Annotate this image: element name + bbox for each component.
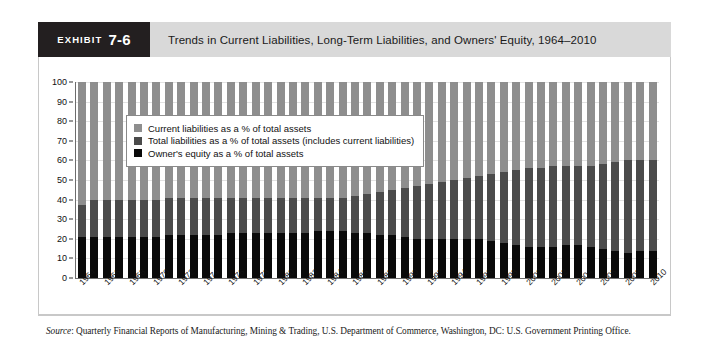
bar-1976	[227, 82, 235, 278]
segment-current-liabilities-2004	[574, 82, 582, 166]
bar-1975	[214, 82, 222, 278]
bar-1987	[363, 82, 371, 278]
y-axis-tick-70: 70	[57, 136, 67, 146]
segment-total-liabilities-1965	[90, 200, 98, 237]
segment-current-liabilities-2005	[587, 82, 595, 166]
segment-total-liabilities-1968	[128, 200, 136, 237]
bar-1967	[115, 82, 123, 278]
segment-current-liabilities-1995	[463, 82, 471, 178]
segment-total-liabilities-2007	[611, 162, 619, 250]
source-note: Source: Quarterly Financial Reports of M…	[46, 326, 671, 336]
bar-2001	[537, 82, 545, 278]
segment-current-liabilities-1965	[90, 82, 98, 200]
plot-area: Current liabilities as a % of total asse…	[75, 82, 659, 279]
segment-current-liabilities-1967	[115, 82, 123, 200]
bar-1983	[314, 82, 322, 278]
segment-total-liabilities-2005	[587, 166, 595, 246]
bar-1972	[177, 82, 185, 278]
bar-1966	[103, 82, 111, 278]
bar-series-group	[76, 82, 659, 278]
segment-total-liabilities-1998	[500, 172, 508, 243]
segment-current-liabilities-1999	[512, 82, 520, 170]
y-axis-tick-10: 10	[57, 253, 67, 263]
y-axis-tick-50: 50	[57, 175, 67, 185]
bar-2008	[624, 82, 632, 278]
bar-1998	[500, 82, 508, 278]
segment-total-liabilities-1982	[301, 198, 309, 233]
segment-current-liabilities-1964	[78, 82, 86, 205]
segment-total-liabilities-1994	[450, 180, 458, 239]
segment-current-liabilities-1993	[438, 82, 446, 182]
segment-current-liabilities-2000	[525, 82, 533, 168]
segment-total-liabilities-1999	[512, 170, 520, 244]
segment-total-liabilities-1976	[227, 198, 235, 233]
legend-item-current-liabilities: Current liabilities as a % of total asse…	[134, 123, 414, 134]
bar-1992	[425, 82, 433, 278]
segment-total-liabilities-1989	[388, 190, 396, 235]
legend-item-owners-equity: Owner's equity as a % of total assets	[134, 148, 414, 159]
bar-1978	[252, 82, 260, 278]
segment-total-liabilities-2002	[549, 166, 557, 246]
exhibit-tab-number: 7-6	[108, 31, 130, 48]
bar-1982	[301, 82, 309, 278]
bar-2009	[636, 82, 644, 278]
segment-current-liabilities-1998	[500, 82, 508, 172]
bar-2002	[549, 82, 557, 278]
y-axis-tick-mark	[69, 140, 73, 141]
segment-current-liabilities-2008	[624, 82, 632, 160]
y-axis-tick-mark	[69, 258, 73, 259]
segment-total-liabilities-1997	[487, 174, 495, 241]
segment-current-liabilities-1996	[475, 82, 483, 176]
source-divider	[38, 315, 671, 316]
bar-1977	[239, 82, 247, 278]
segment-total-liabilities-1979	[264, 198, 272, 233]
y-axis-tick-0: 0	[62, 273, 67, 283]
bar-1994	[450, 82, 458, 278]
legend-swatch-owners-equity	[134, 149, 142, 157]
segment-total-liabilities-1993	[438, 182, 446, 239]
segment-current-liabilities-2002	[549, 82, 557, 166]
legend-label-owners-equity: Owner's equity as a % of total assets	[148, 148, 303, 159]
y-axis-tick-30: 30	[57, 214, 67, 224]
y-axis-tick-mark	[69, 219, 73, 220]
segment-total-liabilities-1964	[78, 205, 86, 236]
segment-total-liabilities-1970	[152, 200, 160, 237]
exhibit-title: Trends in Current Liabilities, Long-Term…	[150, 22, 671, 57]
legend-swatch-current-liabilities	[134, 124, 142, 132]
bar-1986	[351, 82, 359, 278]
y-axis-tick-mark	[69, 238, 73, 239]
bar-1964	[78, 82, 86, 278]
y-axis-tick-20: 20	[57, 234, 67, 244]
source-label: Source	[46, 326, 71, 336]
y-axis-tick-80: 80	[57, 116, 67, 126]
bar-1970	[152, 82, 160, 278]
bar-2007	[611, 82, 619, 278]
segment-current-liabilities-2010	[649, 82, 657, 160]
segment-total-liabilities-1995	[463, 178, 471, 239]
bar-1995	[463, 82, 471, 278]
segment-total-liabilities-2008	[624, 160, 632, 252]
y-axis-tick-mark	[69, 278, 73, 279]
bar-1984	[326, 82, 334, 278]
segment-total-liabilities-1966	[103, 200, 111, 237]
segment-total-liabilities-2004	[574, 166, 582, 244]
legend-item-total-liabilities: Total liabilities as a % of total assets…	[134, 135, 414, 146]
bar-1981	[289, 82, 297, 278]
segment-current-liabilities-1997	[487, 82, 495, 174]
y-axis-tick-mark	[69, 121, 73, 122]
legend-swatch-total-liabilities	[134, 137, 142, 145]
segment-total-liabilities-1973	[190, 198, 198, 235]
segment-current-liabilities-2009	[636, 82, 644, 160]
segment-current-liabilities-1994	[450, 82, 458, 180]
chart-container: 0102030405060708090100 Current liabiliti…	[38, 62, 671, 317]
segment-total-liabilities-1978	[252, 198, 260, 233]
bar-1999	[512, 82, 520, 278]
bar-1993	[438, 82, 446, 278]
bar-1997	[487, 82, 495, 278]
exhibit-header: EXHIBIT 7-6 Trends in Current Liabilitie…	[38, 22, 671, 57]
segment-total-liabilities-2003	[562, 166, 570, 244]
segment-total-liabilities-1967	[115, 200, 123, 237]
y-axis-tick-100: 100	[52, 77, 67, 87]
bar-1996	[475, 82, 483, 278]
segment-total-liabilities-1996	[475, 176, 483, 239]
